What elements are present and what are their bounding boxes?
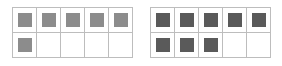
- ten-frame-cell: [175, 33, 199, 58]
- square-counter-icon: [18, 13, 32, 27]
- ten-frame-cell: [199, 33, 223, 58]
- square-counter-icon: [114, 13, 128, 27]
- ten-frame-cell: [61, 33, 85, 58]
- ten-frame-cell: [109, 33, 133, 58]
- square-counter-icon: [204, 13, 218, 27]
- ten-frame-cell: [13, 8, 37, 33]
- ten-frame-right: [150, 7, 271, 58]
- ten-frame-cell: [247, 8, 271, 33]
- square-counter-icon: [204, 38, 218, 52]
- ten-frame-cell: [13, 33, 37, 58]
- ten-frame-cell: [175, 8, 199, 33]
- square-counter-icon: [180, 38, 194, 52]
- ten-frame-cell: [37, 8, 61, 33]
- square-counter-icon: [18, 38, 32, 52]
- ten-frame-left: [12, 7, 133, 58]
- ten-frame-cell: [199, 8, 223, 33]
- square-counter-icon: [66, 13, 80, 27]
- ten-frame-cell: [61, 8, 85, 33]
- square-counter-icon: [252, 13, 266, 27]
- ten-frame-cell: [223, 33, 247, 58]
- ten-frame-cell: [37, 33, 61, 58]
- square-counter-icon: [156, 38, 170, 52]
- ten-frame-cell: [151, 8, 175, 33]
- square-counter-icon: [180, 13, 194, 27]
- ten-frame-cell: [85, 33, 109, 58]
- ten-frame-cell: [151, 33, 175, 58]
- square-counter-icon: [90, 13, 104, 27]
- square-counter-icon: [228, 13, 242, 27]
- ten-frame-cell: [85, 8, 109, 33]
- square-counter-icon: [42, 13, 56, 27]
- ten-frame-cell: [109, 8, 133, 33]
- ten-frame-cell: [247, 33, 271, 58]
- ten-frame-cell: [223, 8, 247, 33]
- square-counter-icon: [156, 13, 170, 27]
